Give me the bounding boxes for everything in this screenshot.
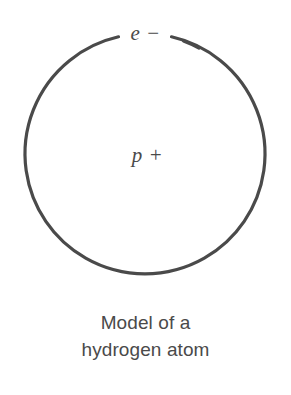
hydrogen-atom-diagram: e − p + (0, 0, 291, 300)
figure-root: e − p + Model of a hydrogen atom (0, 0, 291, 395)
caption-line-2: hydrogen atom (0, 336, 291, 363)
figure-caption: Model of a hydrogen atom (0, 309, 291, 363)
proton-label: p + (0, 142, 291, 168)
caption-line-1: Model of a (0, 309, 291, 336)
electron-label: e − (0, 20, 291, 46)
